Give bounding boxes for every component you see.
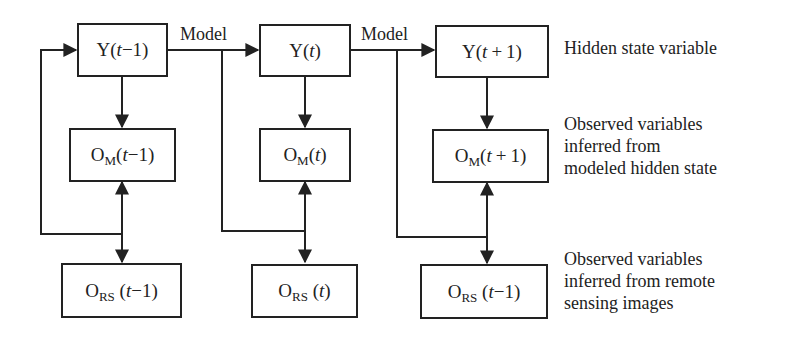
paren: )	[514, 281, 520, 303]
node-main: O	[278, 280, 292, 302]
node-y-next: Y(t+1)	[435, 25, 549, 78]
node-main: Y	[97, 39, 111, 61]
row-label-hidden-state: Hidden state variable	[564, 37, 717, 59]
paren: )	[324, 280, 330, 302]
offset: 1	[506, 41, 516, 63]
paren: (	[115, 280, 126, 302]
node-y-curr: Y(t)	[259, 24, 351, 77]
node-om-curr: OM(t)	[259, 128, 351, 182]
label-line: sensing images	[564, 292, 715, 314]
offset: 1	[133, 39, 143, 61]
label-line: Hidden state variable	[564, 37, 717, 59]
node-om-next: OM(t+1)	[432, 129, 549, 183]
paren: )	[142, 39, 148, 61]
label-line: Observed variables	[564, 113, 717, 135]
paren: )	[520, 145, 526, 167]
node-main: O	[91, 144, 105, 166]
operator: −	[128, 144, 139, 166]
paren: )	[148, 144, 154, 166]
node-om-prev: OM(t−1)	[69, 128, 176, 182]
row-label-modeled-observations: Observed variables inferred from modeled…	[564, 113, 717, 179]
node-main: O	[448, 281, 462, 303]
node-subscript: M	[105, 153, 117, 169]
node-main: Y	[289, 40, 303, 62]
offset: 1	[510, 145, 520, 167]
operator: −	[122, 39, 133, 61]
paren: )	[151, 280, 157, 302]
node-subscript: RS	[292, 289, 308, 305]
model-label-2: Model	[361, 24, 408, 45]
model-label-1: Model	[180, 24, 227, 45]
node-main: Y	[462, 41, 476, 63]
node-subscript: RS	[99, 289, 115, 305]
label-line: Observed variables	[564, 248, 715, 270]
operator: +	[491, 41, 502, 63]
time-var: t	[486, 145, 491, 167]
offset: 1	[138, 144, 148, 166]
label-line: modeled hidden state	[564, 157, 717, 179]
node-y-prev: Y(t−1)	[77, 23, 168, 77]
operator: +	[496, 145, 507, 167]
label-line: inferred from	[564, 135, 717, 157]
paren: )	[320, 144, 326, 166]
node-subscript: M	[297, 153, 309, 169]
offset: 1	[504, 281, 514, 303]
node-subscript: RS	[461, 290, 477, 306]
node-main: O	[283, 144, 297, 166]
node-main: O	[85, 280, 99, 302]
paren: (	[308, 280, 319, 302]
node-subscript: M	[469, 154, 481, 170]
node-ors-curr: ORS (t)	[251, 264, 358, 318]
node-main: O	[455, 145, 469, 167]
node-ors-prev: ORS (t−1)	[61, 263, 182, 318]
operator: −	[494, 281, 505, 303]
offset: 1	[142, 280, 152, 302]
paren: )	[516, 41, 522, 63]
row-label-remote-sensing-observations: Observed variables inferred from remote …	[564, 248, 715, 314]
operator: −	[131, 280, 142, 302]
label-line: inferred from remote	[564, 270, 715, 292]
time-var: t	[482, 41, 487, 63]
paren: (	[477, 281, 488, 303]
node-ors-next: ORS (t−1)	[420, 264, 548, 319]
paren: )	[315, 40, 321, 62]
